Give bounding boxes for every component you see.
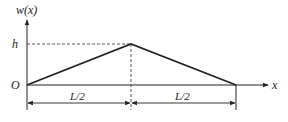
x-axis-label: x [271, 78, 278, 92]
origin-label: O [11, 78, 20, 92]
dimension-left-label: L/2 [69, 90, 85, 102]
y-axis-label: w(x) [16, 3, 37, 17]
diagram-canvas: w(x) x O h L/2 L/2 [0, 0, 288, 122]
dimension-right-label: L/2 [174, 90, 190, 102]
deflection-curve [27, 44, 236, 85]
peak-label: h [12, 37, 18, 51]
